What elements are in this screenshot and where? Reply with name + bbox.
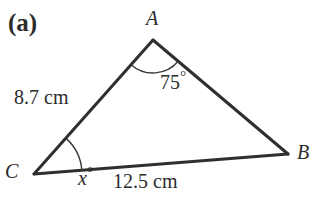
angle-value-a: 75 — [160, 71, 180, 93]
side-length-cb: 12.5 cm — [113, 171, 177, 191]
degree-symbol-a: ° — [180, 67, 186, 84]
angle-label-a: 75° — [140, 52, 186, 112]
vertex-label-b: B — [297, 142, 309, 162]
angle-value-c: x — [78, 167, 87, 189]
vertex-label-c: C — [5, 161, 18, 181]
part-label: (a) — [8, 10, 37, 35]
vertex-label-a: A — [146, 8, 158, 28]
figure-canvas: (a) A B C 8.7 cm 12.5 cm 75° x° — [0, 0, 323, 197]
side-length-ca: 8.7 cm — [14, 87, 68, 107]
degree-symbol-c: ° — [87, 163, 93, 180]
angle-label-c: x° — [58, 148, 93, 197]
